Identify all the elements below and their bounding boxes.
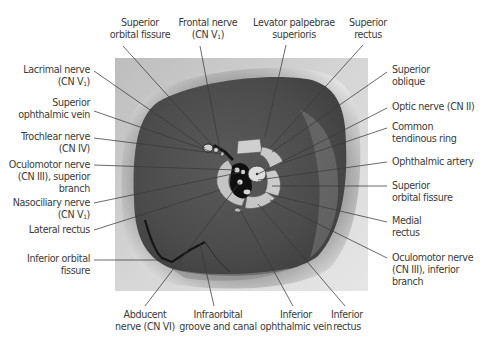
label-superior-orbital-fissure-right: Superior orbital fissure bbox=[392, 180, 490, 204]
label-superior-rectus: Superior rectus bbox=[340, 17, 396, 41]
label-medial-rectus: Medial rectus bbox=[392, 215, 490, 239]
label-frontal-nerve: Frontal nerve (CN V1) bbox=[165, 17, 251, 41]
label-abducent-nerve: Abducent nerve (CN VI) bbox=[105, 309, 185, 333]
label-oculomotor-superior-branch: Oculomotor nerve (CN III), superior bran… bbox=[0, 159, 90, 196]
medial-rectus-origin bbox=[265, 170, 280, 196]
label-inferior-rectus: Inferior rectus bbox=[322, 309, 372, 333]
label-inferior-orbital-fissure: Inferior orbital fissure bbox=[0, 253, 90, 277]
label-common-tendinous-ring: Common tendinous ring bbox=[392, 121, 490, 145]
label-superior-ophthalmic-vein: Superior ophthalmic vein bbox=[0, 97, 90, 121]
label-infraorbital-groove: Infraorbital groove and canal bbox=[175, 309, 261, 333]
orbit-diagram: Superior orbital fissure Frontal nerve (… bbox=[0, 0, 490, 344]
label-nasociliary-nerve: Nasociliary nerve (CN V1) bbox=[0, 197, 90, 221]
label-lateral-rectus: Lateral rectus bbox=[0, 224, 90, 236]
label-optic-nerve: Optic nerve (CN II) bbox=[392, 101, 490, 113]
levator-palpebrae-origin bbox=[237, 139, 262, 154]
label-trochlear-nerve: Trochlear nerve (CN IV) bbox=[0, 131, 90, 155]
label-oculomotor-inferior-branch: Oculomotor nerve (CN III), inferior bran… bbox=[392, 252, 490, 289]
label-levator-palpebrae: Levator palpebrae superioris bbox=[244, 17, 344, 41]
label-superior-oblique: Superior oblique bbox=[392, 64, 490, 88]
label-lacrimal-nerve: Lacrimal nerve (CN V1) bbox=[0, 64, 90, 88]
label-ophthalmic-artery: Ophthalmic artery bbox=[392, 156, 490, 168]
ophthalmic-artery-mark bbox=[256, 173, 258, 175]
oculomotor-inferior-branch bbox=[244, 190, 251, 195]
frontal-nerve-stub bbox=[214, 148, 219, 153]
